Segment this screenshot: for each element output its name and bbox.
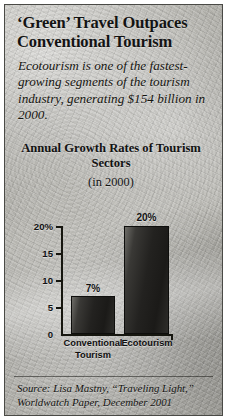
y-tick-10	[56, 280, 62, 282]
bar-ecotourism	[124, 226, 169, 334]
article-content: ‘Green’ Travel Outpaces Conventional Tou…	[5, 5, 222, 415]
y-tick-label-10: 10	[11, 275, 53, 286]
y-tick-5	[56, 307, 62, 309]
bar-value-conventional-tourism: 7%	[71, 283, 115, 294]
chart-title: Annual Growth Rates of Tourism Sectors	[13, 141, 209, 172]
article-card: ‘Green’ Travel Outpaces Conventional Tou…	[4, 4, 223, 416]
article-deck: Ecotourism is one of the fastest-growing…	[18, 58, 214, 124]
y-tick-20	[56, 226, 62, 228]
bar-chart: 20% 15 10 5 0 7% 20% Conventional Touris…	[5, 201, 223, 371]
page-title: ‘Green’ Travel Outpaces Conventional Tou…	[17, 13, 213, 51]
bar-conventional-tourism	[71, 296, 115, 334]
footer-divider	[14, 376, 213, 377]
chart-subtitle: (in 2000)	[13, 175, 209, 190]
y-tick-15	[56, 253, 62, 255]
category-label-ecotourism: Ecotourism	[119, 338, 175, 350]
y-tick-label-15: 15	[11, 248, 53, 259]
category-label-conventional-tourism: Conventional Tourism	[61, 338, 125, 361]
y-tick-label-5: 5	[11, 302, 53, 313]
source-citation: Source: Lisa Mastny, “Traveling Light,” …	[17, 381, 215, 409]
y-tick-label-20: 20%	[11, 221, 53, 232]
x-axis-line	[61, 334, 172, 336]
bar-value-ecotourism: 20%	[124, 212, 169, 223]
y-tick-label-0: 0	[11, 329, 53, 340]
